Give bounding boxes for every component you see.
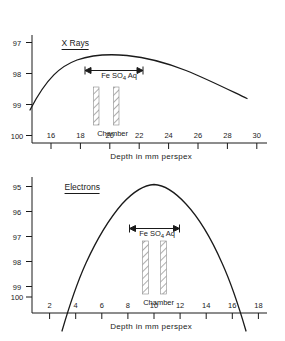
electrons-x-ticks [50, 313, 259, 319]
xrays-x-tick-label: 28 [223, 131, 231, 140]
electrons-y-tick-label: 99 [13, 283, 21, 292]
xrays-x-tick-label: 16 [47, 131, 55, 140]
xrays-curve [30, 55, 247, 110]
electrons-x-tick-label: 6 [100, 301, 104, 310]
xrays-y-tick-label: 98 [13, 70, 21, 79]
xrays-x-axis-title: Depth in mm perspex [110, 152, 192, 161]
electrons-y-tick-label: 97 [13, 233, 21, 242]
electrons-chamber-walls [143, 241, 167, 294]
xrays-chamber-walls [94, 87, 120, 125]
electrons-x-tick-label: 12 [176, 301, 184, 310]
xrays-y-tick-labels: 100 99 98 97 [11, 39, 24, 141]
xrays-y-ticks [26, 43, 32, 136]
xrays-series-label: X Rays [62, 38, 89, 50]
electrons-series-label: Electrons [65, 182, 100, 194]
electrons-x-axis-title: Depth in mm perspex [110, 322, 192, 331]
electrons-y-tick-label: 98 [13, 258, 21, 267]
electrons-y-tick-label: 96 [13, 208, 21, 217]
chart-panel-electrons: 2 4 6 8 10 12 14 16 18 100 [0, 170, 285, 335]
xrays-solution-tail: Aq [126, 71, 137, 80]
xrays-y-tick-label: 99 [13, 101, 21, 110]
xrays-x-tick-label: 26 [194, 131, 202, 140]
electrons-axes [32, 177, 267, 313]
xrays-y-tick-label: 97 [13, 39, 21, 48]
electrons-plot: 2 4 6 8 10 12 14 16 18 100 [0, 170, 285, 335]
xrays-x-tick-label: 22 [135, 131, 143, 140]
electrons-x-tick-label: 14 [202, 301, 210, 310]
electrons-y-tick-labels: 100 99 98 97 96 95 [11, 183, 24, 303]
xrays-solution-text: Fe SO [101, 71, 123, 80]
electrons-x-tick-label: 8 [126, 301, 130, 310]
xrays-y-tick-label: 100 [11, 132, 24, 141]
xrays-x-tick-labels: 16 18 20 22 24 26 28 30 [47, 131, 261, 140]
electrons-solution-tail: Aq [164, 229, 175, 238]
electrons-x-tick-label: 18 [254, 301, 262, 310]
electrons-chamber-label: Chamber [143, 298, 174, 307]
xrays-x-tick-label: 30 [253, 131, 261, 140]
xrays-x-tick-label: 24 [164, 131, 172, 140]
figure-rotator: 2 4 6 8 10 12 14 16 18 100 [0, 0, 285, 341]
xrays-plot: 16 18 20 22 24 26 28 30 100 99 98 97 [0, 5, 285, 165]
xrays-x-tick-label: 18 [76, 131, 84, 140]
electrons-y-tick-label: 100 [11, 293, 24, 302]
xrays-chamber-label: Chamber [97, 129, 128, 138]
electrons-x-tick-label: 4 [74, 301, 78, 310]
electrons-x-tick-label: 2 [48, 301, 52, 310]
electrons-solution-label: Fe SO4 Aq [139, 229, 175, 240]
xrays-axes [32, 35, 267, 143]
electrons-solution-text: Fe SO [139, 229, 161, 238]
electrons-y-ticks [26, 187, 32, 298]
electrons-y-tick-label: 95 [13, 183, 21, 192]
electrons-x-tick-label: 16 [228, 301, 236, 310]
xrays-solution-label: Fe SO4 Aq [101, 71, 137, 82]
xrays-x-ticks [51, 143, 257, 149]
chart-panel-xrays: 16 18 20 22 24 26 28 30 100 99 98 97 [0, 5, 285, 165]
